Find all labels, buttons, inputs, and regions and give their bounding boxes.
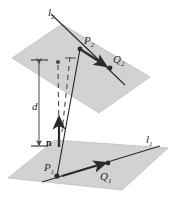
dashed-line-top-dot: [56, 60, 60, 64]
label-distance-d: d: [32, 100, 38, 112]
point-q1-dot: [106, 161, 111, 166]
point-p1-dot: [54, 173, 59, 178]
point-q2-dot: [108, 66, 113, 71]
label-line-l1: l1: [146, 133, 153, 148]
label-normal-vector-n: n: [46, 137, 52, 148]
point-p2-dot: [78, 47, 83, 52]
diagram-canvas: l2 P2 Q2 l1 P1 Q1 d n: [0, 0, 176, 200]
lower-plane: [8, 140, 168, 190]
label-line-l2: l2: [48, 6, 55, 21]
geometry-figure: l2 P2 Q2 l1 P1 Q1 d n: [0, 0, 176, 200]
